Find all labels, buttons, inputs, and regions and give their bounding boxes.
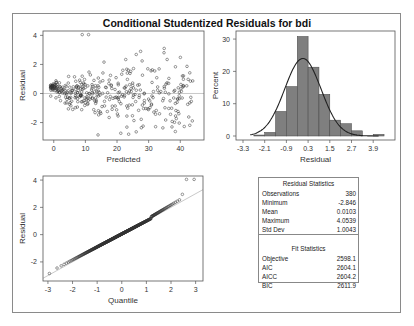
svg-text:Predicted: Predicted: [107, 155, 141, 164]
svg-text:-3.3: -3.3: [237, 145, 249, 152]
histogram-bar: [341, 124, 352, 136]
residual-statistics-title: Residual Statistics: [259, 178, 358, 189]
stat-row: AICC2604.2: [259, 272, 358, 281]
svg-text:10: 10: [81, 145, 89, 152]
histogram-bar: [319, 94, 330, 136]
svg-text:4: 4: [33, 32, 37, 39]
svg-text:2: 2: [33, 204, 37, 211]
svg-text:2.7: 2.7: [347, 145, 357, 152]
svg-text:Residual: Residual: [18, 213, 27, 244]
histogram-bar: [330, 120, 341, 136]
svg-text:Quantile: Quantile: [108, 296, 138, 305]
svg-text:2: 2: [33, 61, 37, 68]
histogram-bar: [286, 87, 297, 136]
svg-text:10: 10: [222, 100, 230, 107]
svg-text:-0.9: -0.9: [280, 145, 292, 152]
svg-text:3: 3: [194, 286, 198, 293]
svg-text:0.3: 0.3: [303, 145, 313, 152]
histogram-bar: [297, 36, 308, 136]
svg-text:20: 20: [222, 68, 230, 75]
svg-text:-1: -1: [94, 286, 100, 293]
histogram-bar: [265, 132, 276, 136]
svg-text:-2.1: -2.1: [259, 145, 271, 152]
svg-text:-2: -2: [31, 258, 37, 265]
stat-row: Std Dev1.0043: [259, 225, 358, 234]
svg-text:0: 0: [33, 90, 37, 97]
svg-text:20: 20: [113, 145, 121, 152]
divider: [259, 234, 358, 243]
stat-row: Minimum-2.846: [259, 198, 358, 207]
svg-text:4: 4: [33, 177, 37, 184]
residual-vs-predicted-plot: 010203040-2024PredictedResidual: [18, 31, 204, 164]
svg-text:0: 0: [226, 133, 230, 140]
qq-plot: -3-2-10123-2024QuantileResidual: [18, 176, 203, 305]
histogram-bar: [276, 111, 287, 136]
residual-histogram: -3.3-2.1-0.90.31.52.73.90102030ResidualP…: [211, 31, 395, 164]
svg-text:1.5: 1.5: [325, 145, 335, 152]
stat-row: Mean0.0103: [259, 207, 358, 216]
svg-text:3.9: 3.9: [368, 145, 378, 152]
svg-text:2: 2: [169, 286, 173, 293]
svg-text:1: 1: [144, 286, 148, 293]
svg-text:-2: -2: [69, 286, 75, 293]
stat-row: BIC2611.9: [259, 281, 358, 290]
svg-text:Residual: Residual: [300, 155, 331, 164]
svg-text:-2: -2: [31, 119, 37, 126]
svg-text:0: 0: [33, 231, 37, 238]
stat-row: Observations380: [259, 189, 358, 198]
histogram-bar: [308, 67, 319, 136]
svg-text:30: 30: [145, 145, 153, 152]
statistics-table: Residual Statistics Observations380 Mini…: [258, 177, 359, 283]
svg-text:Percent: Percent: [211, 71, 220, 99]
svg-text:30: 30: [222, 36, 230, 43]
svg-text:-3: -3: [45, 286, 51, 293]
histogram-bar: [254, 135, 265, 136]
svg-text:0: 0: [52, 145, 56, 152]
stat-row: Maximum4.0539: [259, 216, 358, 225]
svg-text:40: 40: [176, 145, 184, 152]
svg-text:Residual: Residual: [18, 70, 27, 101]
stat-row: Objective2598.1: [259, 254, 358, 263]
svg-text:0: 0: [120, 286, 124, 293]
fit-statistics-title: Fit Statistics: [259, 243, 358, 254]
stat-row: AIC2604.1: [259, 263, 358, 272]
